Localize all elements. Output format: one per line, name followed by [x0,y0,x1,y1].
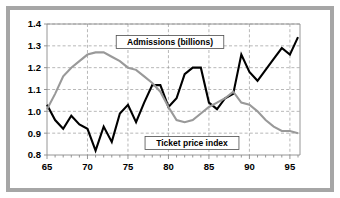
line-chart: 1.41.31.21.11.00.90.8 65707580859095 Adm… [0,0,340,198]
x-axis-tick-label: 85 [204,161,215,172]
y-axis-tick-label: 0.8 [28,149,41,160]
ticket-price-label: Ticket price index [145,137,239,150]
x-axis-tick-label: 90 [244,161,255,172]
y-axis-tick-label: 1.2 [28,62,41,73]
x-axis-tick-labels: 65707580859095 [42,161,296,172]
y-axis-tick-label: 1.1 [28,84,42,95]
y-axis-tick-label: 0.9 [28,128,41,139]
admissions-label: Admissions (billions) [116,36,224,49]
series-line-admissions [47,37,298,151]
y-axis-tick-labels: 1.41.31.21.11.00.90.8 [28,18,42,160]
x-axis-tick-label: 80 [163,161,174,172]
ticket-price-label-text: Ticket price index [156,138,228,148]
admissions-label-text: Admissions (billions) [127,37,213,47]
data-series-layer [47,37,298,151]
y-axis-tick-label: 1.3 [28,40,41,51]
x-axis-tick-label: 70 [82,161,93,172]
x-axis-tick-label: 95 [285,161,296,172]
series-line-ticket-price [47,52,298,133]
y-axis-tick-label: 1.4 [28,18,42,29]
x-axis-tick-label: 65 [42,161,53,172]
chart-frame: 1.41.31.21.11.00.90.8 65707580859095 Adm… [0,0,340,198]
y-axis-tick-label: 1.0 [28,106,41,117]
x-axis-tick-label: 75 [123,161,134,172]
